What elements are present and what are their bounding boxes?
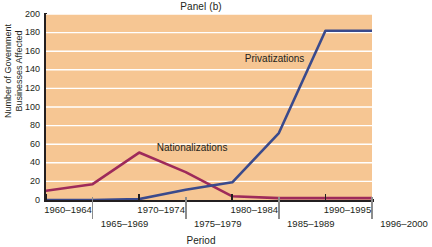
x-category-label: 1990–1995 (314, 204, 380, 215)
y-tick-label: 200 (0, 10, 40, 19)
series-line (46, 31, 372, 200)
x-tick-mark (138, 194, 140, 201)
series-line (46, 153, 372, 199)
plot-area (46, 14, 372, 200)
x-category-label: 1985–1989 (278, 218, 344, 229)
x-tick-mark (231, 194, 233, 201)
y-axis-tick-labels: 020406080100120140160180200 (0, 0, 40, 247)
y-tick-label: 80 (0, 121, 40, 130)
y-tick-label: 160 (0, 47, 40, 56)
gridlines (46, 14, 372, 181)
x-category-label: 1970–1974 (128, 204, 194, 215)
series-annotation: Nationalizations (157, 142, 228, 153)
x-category-label: 1975–1979 (185, 218, 251, 229)
y-tick-label: 20 (0, 177, 40, 186)
y-tick-label: 140 (0, 65, 40, 74)
x-category-label: 1965–1969 (92, 218, 158, 229)
y-tick-label: 40 (0, 158, 40, 167)
series-lines (46, 31, 372, 200)
x-tick-mark (325, 194, 327, 201)
series-annotation: Privatizations (245, 53, 304, 64)
y-tick-label: 120 (0, 84, 40, 93)
y-tick-label: 180 (0, 28, 40, 37)
y-tick-label: 100 (0, 103, 40, 112)
plot-svg (46, 14, 372, 200)
chart-title: Panel (b) (0, 1, 402, 12)
y-tick-label: 0 (0, 196, 40, 205)
x-axis-label: Period (0, 235, 402, 246)
x-category-label: 1996–2000 (371, 218, 432, 229)
x-category-label: 1980–1984 (221, 204, 287, 215)
x-category-label: 1960–1964 (35, 204, 101, 215)
x-tick-mark (45, 194, 47, 201)
y-tick-label: 60 (0, 140, 40, 149)
